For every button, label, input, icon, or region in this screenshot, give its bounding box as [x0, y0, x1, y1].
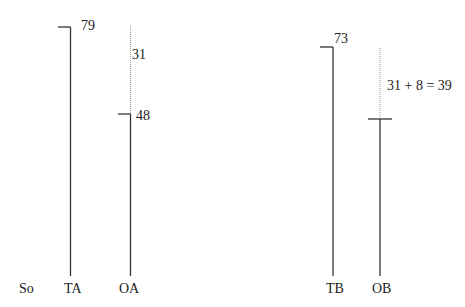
ob-gap-value: 31 + 8 = 39: [387, 79, 452, 93]
oa-gap-value: 31: [132, 48, 146, 62]
label-tb: TB: [326, 282, 344, 296]
tb-bar: [320, 47, 333, 276]
oa-mark-value: 48: [136, 109, 150, 123]
label-oa: OA: [119, 282, 139, 296]
label-ob: OB: [372, 282, 391, 296]
label-so: So: [19, 282, 34, 296]
timeline-diagram: [0, 0, 465, 307]
ta-top-value: 79: [81, 19, 95, 33]
tb-top-value: 73: [334, 32, 348, 46]
oa-bar: [118, 26, 131, 276]
label-ta: TA: [64, 282, 82, 296]
ta-bar: [58, 27, 71, 276]
